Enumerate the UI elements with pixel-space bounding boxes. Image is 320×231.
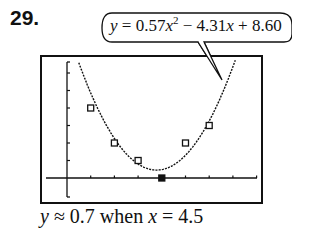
result-caption: y ≈ 0.7 when x = 4.5 [40,205,203,228]
data-point [135,158,141,164]
data-point [206,123,212,129]
data-point [159,175,165,181]
data-point [183,140,189,146]
data-point [88,105,94,111]
data-point [111,140,117,146]
regression-equation: y = 0.57x2 − 4.31x + 8.60 [110,14,282,36]
